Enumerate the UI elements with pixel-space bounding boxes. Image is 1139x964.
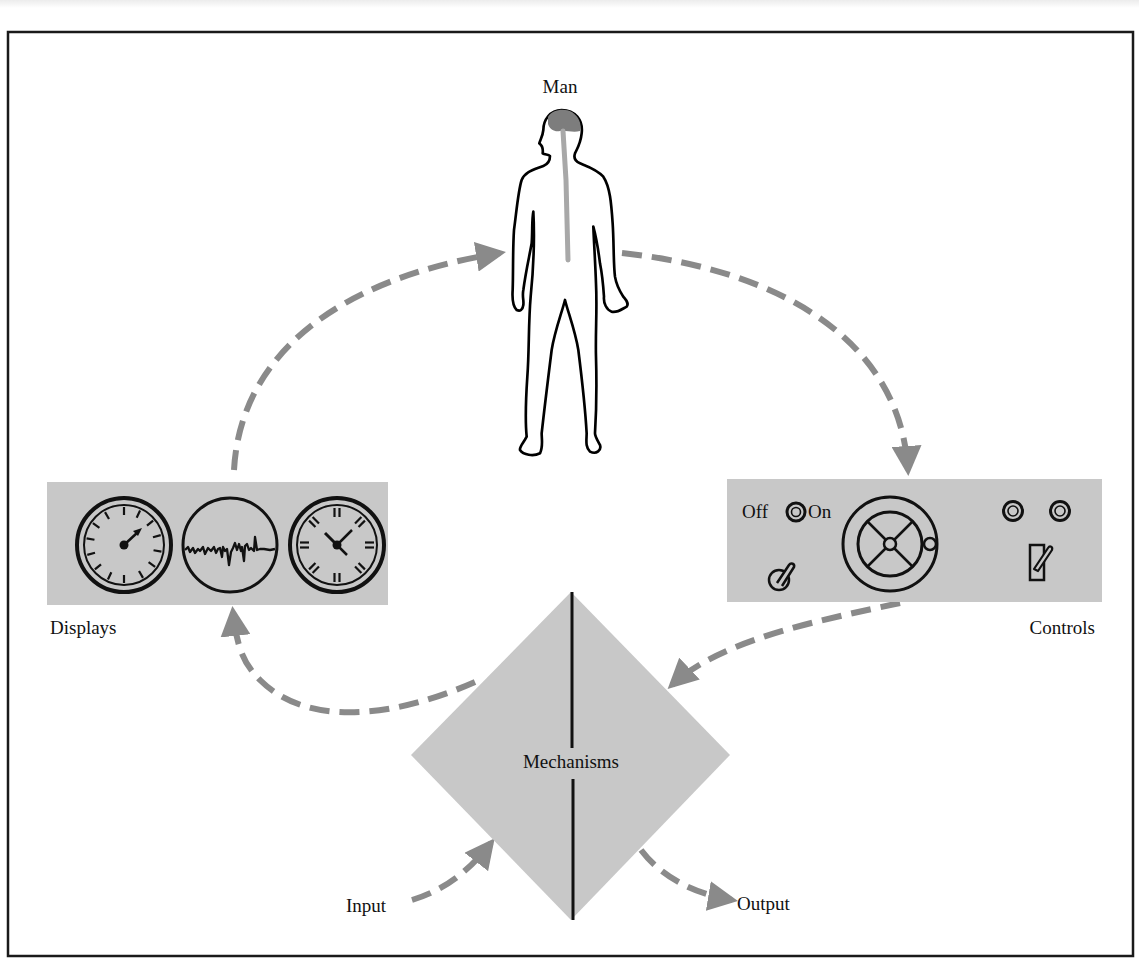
brain-region: [548, 110, 581, 132]
displays-panel: [47, 482, 388, 605]
human-figure-icon: [512, 110, 627, 455]
input-label: Input: [346, 895, 387, 916]
arrow-mechanisms-to-displays: [233, 612, 475, 712]
arrow-displays-to-man: [234, 253, 500, 470]
diagram-canvas: Man: [0, 0, 1139, 964]
switch-off-label: Off: [742, 501, 769, 522]
arrow-input-to-mechanisms: [412, 843, 491, 900]
switch-on-label: On: [808, 501, 832, 522]
mechanisms-label: Mechanisms: [523, 751, 619, 772]
controls-label: Controls: [1030, 617, 1095, 638]
arrow-controls-to-mechanisms: [672, 603, 900, 685]
steering-wheel-icon: [843, 497, 937, 591]
mechanisms-node: Mechanisms: [411, 592, 730, 920]
man-node: Man: [512, 76, 627, 455]
displays-label: Displays: [50, 617, 117, 638]
output-label: Output: [737, 893, 791, 914]
controls-panel: Off On: [727, 479, 1102, 602]
arrow-man-to-controls: [622, 253, 908, 470]
man-label: Man: [543, 76, 578, 97]
diagram-svg: Man: [0, 0, 1139, 964]
arrow-mechanisms-to-output: [641, 850, 732, 900]
